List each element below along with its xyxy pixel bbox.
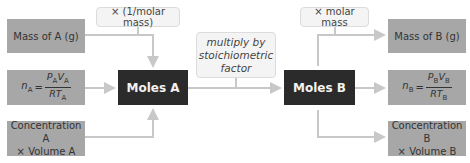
concentration-a-box: Concentration A × Volume A	[7, 121, 85, 156]
moles-a-box: Moles A	[118, 70, 188, 105]
mass-a-label: Mass of A (g)	[13, 30, 78, 43]
concentration-b-box: Concentration B × Volume B	[388, 121, 466, 156]
ideal-gas-b-equation: nB = PBVB RTB	[402, 71, 451, 104]
ideal-gas-b-box: nB = PBVB RTB	[388, 70, 466, 105]
concentration-a-line2: × Volume A	[17, 145, 76, 158]
mass-b-box: Mass of B (g)	[388, 19, 466, 53]
moles-b-box: Moles B	[284, 70, 355, 105]
ideal-gas-a-equation: nA = PAVA RTA	[21, 71, 70, 104]
inverse-molar-mass-note: × (1/molar mass)	[96, 7, 180, 27]
ideal-gas-a-box: nA = PAVA RTA	[7, 70, 85, 105]
stoichiometric-factor-note: multiply by stoichiometric factor	[196, 32, 276, 78]
molar-mass-note: × molar mass	[300, 7, 369, 27]
mass-a-box: Mass of A (g)	[7, 19, 85, 53]
concentration-a-line1: Concentration A	[7, 119, 85, 145]
